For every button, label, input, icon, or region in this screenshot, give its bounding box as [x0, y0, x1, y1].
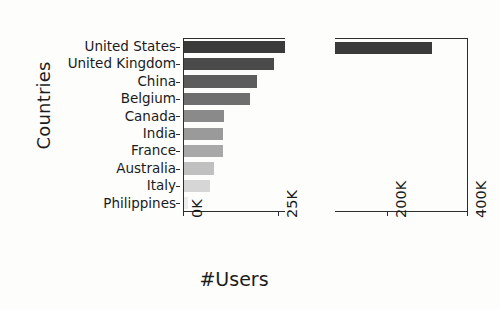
bar-france[interactable] — [184, 145, 223, 157]
y-axis-tick-label: United States — [85, 38, 176, 55]
y-axis-tick-labels: United StatesUnited KingdomChinaBelgiumC… — [58, 38, 180, 212]
bar-united-states[interactable] — [184, 41, 285, 53]
y-axis-tick-label: United Kingdom — [68, 55, 176, 72]
y-axis-tick-mark — [176, 169, 180, 170]
y-axis-title: Countries — [33, 41, 54, 171]
y-axis-tick-label: India — [143, 125, 176, 142]
y-axis-tick-mark — [176, 64, 180, 65]
right-panel-tick-mark — [467, 65, 468, 66]
bar-india[interactable] — [184, 128, 223, 140]
y-axis-tick-label: Belgium — [121, 90, 176, 107]
bar-row — [335, 126, 467, 143]
bar-australia[interactable] — [184, 162, 214, 174]
x-axis-tick-mark — [387, 212, 388, 216]
bar-row — [184, 160, 285, 177]
bar-row — [335, 39, 467, 56]
y-axis-tick-label: Canada — [125, 108, 176, 125]
right-panel-tick-mark — [467, 170, 468, 171]
right-panel-tick-mark — [467, 187, 468, 188]
y-axis-tick-mark — [176, 99, 180, 100]
right-panel-tick-mark — [467, 83, 468, 84]
bar-row — [184, 125, 285, 142]
x-axis-tick-label: 0K — [189, 199, 205, 218]
left-panel-plot-area — [183, 38, 285, 212]
bar-italy[interactable] — [184, 180, 210, 192]
y-axis-tick-mark — [176, 134, 180, 135]
x-axis-tick-mark — [278, 212, 279, 216]
y-axis-tick-label: Italy — [147, 177, 176, 194]
bar-row — [184, 90, 285, 107]
y-axis-tick-label: China — [137, 73, 176, 90]
bar-row — [184, 55, 285, 72]
x-axis-tick-mark — [183, 212, 184, 216]
y-axis-tick-mark — [176, 116, 180, 117]
bar-row — [335, 143, 467, 160]
bar-row — [184, 73, 285, 90]
bar-row — [184, 38, 285, 55]
bar-row — [335, 91, 467, 108]
bar-row — [335, 109, 467, 126]
right-panel-tick-mark — [467, 48, 468, 49]
right-panel-tick-mark — [467, 100, 468, 101]
bar-row — [335, 161, 467, 178]
y-axis-tick-mark — [176, 186, 180, 187]
y-axis-tick-label: Philippines — [103, 195, 176, 212]
bar-philippines[interactable] — [184, 197, 188, 209]
bar-row — [184, 108, 285, 125]
x-axis-tick-label: 25K — [284, 190, 300, 218]
bar-united-states[interactable] — [335, 42, 432, 54]
y-axis-tick-mark — [176, 47, 180, 48]
x-axis-tick-mark — [467, 212, 468, 216]
x-axis-title: #Users — [183, 268, 285, 290]
y-axis-tick-mark — [176, 203, 180, 204]
bar-chart-figure: Countries United StatesUnited KingdomChi… — [0, 0, 500, 310]
bar-row — [335, 56, 467, 73]
y-axis-tick-label: France — [131, 142, 176, 159]
bar-row — [335, 74, 467, 91]
y-axis-tick-label: Australia — [116, 160, 176, 177]
bar-belgium[interactable] — [184, 93, 250, 105]
y-axis-tick-mark — [176, 151, 180, 152]
x-axis-tick-label: 400K — [473, 181, 489, 218]
bar-china[interactable] — [184, 75, 257, 87]
bar-canada[interactable] — [184, 110, 224, 122]
y-axis-tick-mark — [176, 82, 180, 83]
right-panel-tick-mark — [467, 152, 468, 153]
right-panel-tick-mark — [467, 135, 468, 136]
bar-row — [184, 177, 285, 194]
x-axis-tick-label: 200K — [393, 181, 409, 218]
right-panel-tick-mark — [467, 204, 468, 205]
right-panel-tick-mark — [467, 117, 468, 118]
bar-row — [184, 142, 285, 159]
bar-united-kingdom[interactable] — [184, 58, 274, 70]
